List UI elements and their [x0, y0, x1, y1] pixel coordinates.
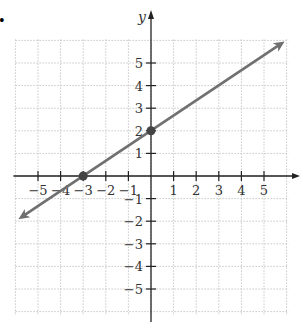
y-tick-label: −1	[124, 192, 143, 207]
y-axis-arrow-icon	[148, 10, 154, 19]
grid-lines	[15, 39, 288, 315]
y-axis-label: y	[137, 9, 147, 25]
line-arrowhead-icon	[18, 209, 30, 219]
problem-bullet: •	[0, 12, 5, 29]
y-tick-label: −2	[124, 214, 143, 229]
x-tick-label: 3	[215, 183, 223, 198]
y-tick-label: 4	[135, 79, 143, 94]
x-tick-label: −2	[96, 183, 115, 198]
y-tick-label: −4	[124, 259, 143, 274]
intercept-point	[147, 126, 156, 135]
x-tick-label: −5	[28, 183, 47, 198]
x-tick-label: 2	[192, 183, 200, 198]
intercept-point	[79, 172, 88, 181]
line-arrowhead-icon	[273, 41, 285, 51]
x-tick-label: 4	[237, 183, 245, 198]
y-tick-label: 5	[135, 56, 143, 71]
x-axis-arrow-icon	[292, 173, 300, 179]
x-tick-label: −3	[74, 183, 93, 198]
y-tick-label: 3	[135, 101, 143, 116]
x-tick-label: 1	[169, 183, 177, 198]
coordinate-plane: • −5−4−3−2−11234554321−1−2−3−4−5 y	[0, 0, 300, 323]
y-tick-label: −5	[124, 282, 143, 297]
axes	[13, 10, 300, 322]
x-tick-label: 5	[260, 183, 268, 198]
y-tick-label: 1	[135, 146, 143, 161]
y-tick-label: −3	[124, 237, 143, 252]
